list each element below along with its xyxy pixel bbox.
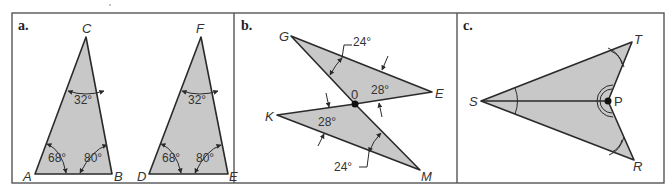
side-arrow-ge <box>382 56 388 70</box>
vertex-label-c: C <box>82 21 92 36</box>
panel-label-b: b. <box>241 18 252 33</box>
point-label-r: R <box>633 159 642 174</box>
angle-value-e: 80° <box>196 151 214 165</box>
angle-value-bottom-24: 24° <box>334 160 352 174</box>
angle-value-d: 68° <box>162 151 180 165</box>
angle-value-c: 32° <box>74 93 92 107</box>
side-arrow-oe <box>379 103 382 117</box>
vertex-label-b: B <box>114 169 123 184</box>
angle-value-top-24: 24° <box>353 35 371 49</box>
point-label-p: P <box>614 94 623 109</box>
angle-value-a: 68° <box>48 151 66 165</box>
point-label-o: 0 <box>351 87 358 102</box>
point-label-s: S <box>469 94 478 109</box>
side-arrow-ko <box>326 93 329 107</box>
point-label-t: T <box>634 32 643 47</box>
angle-value-upper-28: 28° <box>371 83 389 97</box>
stray-dot <box>109 4 111 6</box>
figure-stage: a. C A B 32° 68° 80° F D E 32° <box>0 0 667 194</box>
panel-label-c: c. <box>463 18 473 33</box>
point-label-g: G <box>279 29 289 44</box>
panel-label-a: a. <box>18 18 29 33</box>
angle-value-f: 32° <box>188 93 206 107</box>
point-label-e: E <box>435 86 444 101</box>
point-label-m: M <box>421 169 432 184</box>
panel-b: b. G E 0 K M 24° 28° 28° 24° <box>241 18 444 184</box>
panel-c: c. S T P R <box>463 18 643 174</box>
panel-a: a. C A B 32° 68° 80° F D E 32° <box>18 18 238 184</box>
vertex-label-d: D <box>137 169 146 184</box>
side-arrow-km <box>318 134 324 146</box>
triangle-def: F D E 32° 68° 80° <box>137 21 238 184</box>
angle-value-lower-28: 28° <box>318 115 336 129</box>
triangle-abc: C A B 32° 68° 80° <box>22 21 123 184</box>
point-p-dot <box>605 98 612 105</box>
vertex-label-a: A <box>22 169 32 184</box>
vertex-label-e: E <box>229 169 238 184</box>
vertex-label-f: F <box>196 21 205 36</box>
leader-line-24-bottom <box>359 152 369 167</box>
point-label-k: K <box>265 109 275 124</box>
angle-value-b: 80° <box>84 151 102 165</box>
